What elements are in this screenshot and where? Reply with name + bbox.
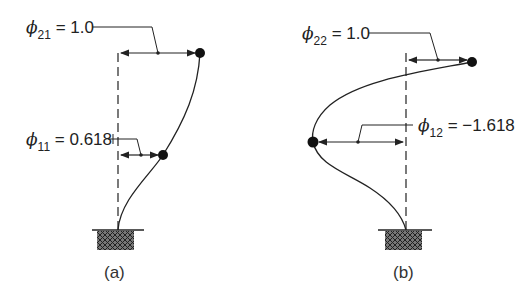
ground-hatch-a [97,231,134,250]
panel-b [308,33,478,250]
label-phi21: ϕ21 = 1.0 [26,19,94,36]
mass-mid-a [158,150,168,160]
label-phi22: ϕ22 = 1.0 [302,25,370,42]
caption-a: (a) [104,263,125,283]
mass-left-b [308,137,319,148]
label-phi11: ϕ11 = 0.618 [26,131,112,148]
label-phi12: ϕ12 = −1.618 [418,117,515,134]
mass-top-a [195,48,205,58]
caption-b: (b) [393,263,414,283]
mode-shapes-diagram [0,0,530,300]
mode-shape-curve-a [118,53,200,230]
ground-hatch-b [385,231,422,250]
mass-top-b [467,57,477,67]
mode-shape-curve-b [313,62,472,230]
